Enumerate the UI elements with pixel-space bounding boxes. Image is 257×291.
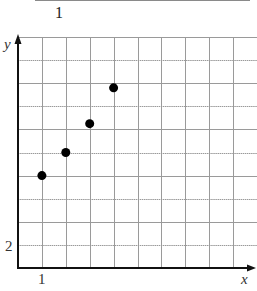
y-axis-label: y (4, 36, 11, 53)
x-axis-arrow-icon (247, 265, 256, 272)
data-point (61, 148, 70, 157)
data-point (85, 119, 94, 128)
data-point (37, 171, 46, 180)
data-point (109, 83, 118, 92)
y-tick-label: 2 (5, 238, 13, 255)
x-axis-label: x (241, 271, 248, 288)
x-tick-label: 1 (38, 271, 46, 288)
scatter-plot (0, 0, 257, 291)
y-axis-arrow-icon (15, 34, 22, 44)
